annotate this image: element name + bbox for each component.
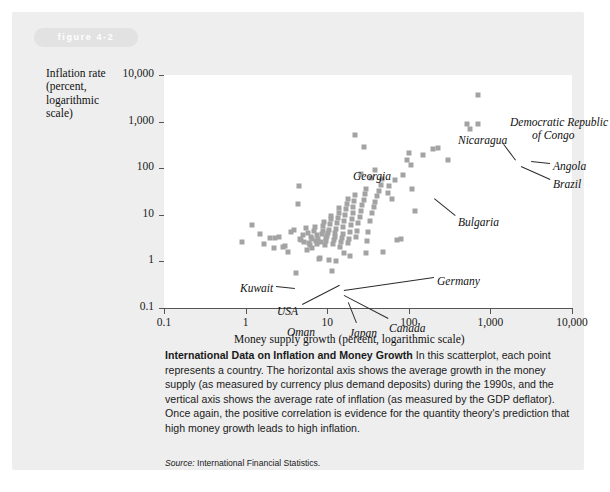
data-point — [362, 191, 367, 196]
data-point — [333, 231, 338, 236]
scatter-plot: Inflation rate (percent, logarithmic sca… — [44, 60, 584, 340]
annotation-label: Brazil — [553, 178, 581, 190]
data-point — [371, 204, 376, 209]
annotation-label: Nicaragua — [458, 134, 507, 146]
data-point — [352, 198, 357, 203]
data-point — [335, 216, 340, 221]
x-tick-label: 10,000 — [556, 316, 588, 328]
annotation-label-line: of Congo — [532, 129, 610, 142]
data-point — [350, 210, 355, 215]
data-point — [353, 193, 358, 198]
data-point — [389, 196, 394, 201]
data-point — [360, 203, 365, 208]
y-tick-label: 10 — [44, 207, 154, 219]
x-tick-mark — [490, 309, 491, 314]
data-point — [378, 182, 383, 187]
y-tick-label-box: 0.1 — [44, 308, 164, 309]
data-point — [327, 222, 332, 227]
data-point — [445, 157, 450, 162]
data-point — [334, 226, 339, 231]
data-point — [373, 199, 378, 204]
data-point — [282, 244, 287, 249]
x-tick-mark — [327, 309, 328, 314]
data-point — [309, 246, 314, 251]
data-point — [344, 202, 349, 207]
source-label: Source: — [165, 458, 195, 468]
data-point — [354, 228, 359, 233]
data-point — [262, 241, 267, 246]
annotation-label: Bulgaria — [458, 216, 499, 228]
data-point — [401, 173, 406, 178]
data-point — [304, 226, 309, 231]
data-point — [340, 231, 345, 236]
y-tick-label-box: 1 — [44, 261, 164, 262]
y-axis-title-line-2: (percent, — [46, 80, 142, 93]
data-point — [337, 205, 342, 210]
data-point — [277, 235, 282, 240]
data-point — [296, 202, 301, 207]
data-point — [341, 225, 346, 230]
data-point — [365, 238, 370, 243]
y-tick-label-box: 100 — [44, 168, 164, 169]
data-point — [312, 224, 317, 229]
data-point — [380, 249, 385, 254]
data-point — [239, 240, 244, 245]
y-tick-label: 0.1 — [44, 300, 154, 312]
data-point — [410, 186, 415, 191]
data-point — [375, 194, 380, 199]
annotation-label: Democratic Republicof Congo — [510, 116, 610, 141]
x-tick-label: 1 — [243, 316, 249, 328]
data-point — [347, 229, 352, 234]
source-text: International Financial Statistics. — [195, 458, 321, 468]
data-point — [330, 269, 335, 274]
annotation-label: Kuwait — [240, 282, 273, 294]
data-point — [347, 254, 352, 259]
data-point — [334, 259, 339, 264]
data-point — [343, 212, 348, 217]
figure-caption: International Data on Inflation and Mone… — [165, 348, 570, 436]
data-point — [318, 255, 323, 260]
figure-source: Source: International Financial Statisti… — [165, 458, 320, 468]
data-point — [341, 251, 346, 256]
data-point — [364, 251, 369, 256]
data-point — [408, 162, 413, 167]
y-tick-label-box: 10,000 — [44, 75, 164, 76]
annotation-label: Germany — [437, 275, 480, 287]
data-point — [353, 234, 358, 239]
figure-number-label: figure 4-2 — [34, 28, 138, 47]
data-point — [361, 197, 366, 202]
data-point — [329, 213, 334, 218]
x-tick-label: 10 — [321, 316, 333, 328]
annotation-label-line: Democratic Republic — [510, 116, 610, 129]
caption-title: International Data on Inflation and Mone… — [165, 349, 413, 361]
data-point — [345, 196, 350, 201]
data-point — [366, 230, 371, 235]
x-axis-title: Money supply growth (percent, logarithmi… — [234, 333, 465, 345]
data-point — [294, 271, 299, 276]
data-point — [326, 227, 331, 232]
data-point — [467, 126, 472, 131]
data-point — [336, 210, 341, 215]
annotation-label: USA — [277, 305, 298, 317]
data-point — [353, 132, 358, 137]
data-point — [376, 188, 381, 193]
data-point — [359, 209, 364, 214]
data-point — [421, 153, 426, 158]
data-point — [326, 258, 331, 263]
data-point — [387, 183, 392, 188]
x-tick-mark — [164, 309, 165, 314]
caption-body: In this scatterplot, each point represen… — [165, 349, 569, 434]
data-point — [406, 151, 411, 156]
data-point — [475, 121, 480, 126]
data-point — [296, 183, 301, 188]
data-point — [285, 249, 290, 254]
data-point — [369, 210, 374, 215]
data-point — [271, 246, 276, 251]
data-point — [322, 220, 327, 225]
figure-number-badge: figure 4-2 — [34, 28, 138, 47]
data-point — [364, 186, 369, 191]
data-point — [348, 223, 353, 228]
x-tick-mark — [572, 309, 573, 314]
y-tick-label: 1 — [44, 253, 154, 265]
x-tick-label: 0.1 — [157, 316, 171, 328]
